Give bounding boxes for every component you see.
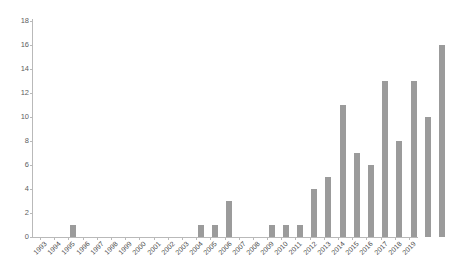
x-axis-tick-label: 2013 xyxy=(316,240,333,257)
bar xyxy=(425,117,431,237)
y-axis-tick-label: 12 xyxy=(0,89,29,97)
x-axis-tick-mark xyxy=(409,238,410,240)
y-axis-tick-mark xyxy=(30,165,32,166)
x-axis-tick-label: 2000 xyxy=(131,240,148,257)
bar xyxy=(382,81,388,237)
bar xyxy=(354,153,360,237)
bar-column xyxy=(279,21,293,237)
bar-column xyxy=(222,21,236,237)
x-axis-tick-mark xyxy=(97,238,98,240)
bar xyxy=(340,105,346,237)
plot-area xyxy=(33,21,416,237)
x-axis-tick-mark xyxy=(338,238,339,240)
bar-column xyxy=(321,21,335,237)
x-axis-tick-mark xyxy=(395,238,396,240)
bar xyxy=(368,165,374,237)
x-axis-tick-label: 2009 xyxy=(259,240,276,257)
x-axis-tick-mark xyxy=(54,238,55,240)
x-axis-tick-label: 1996 xyxy=(75,240,92,257)
x-axis-tick-mark xyxy=(40,238,41,240)
bar-column xyxy=(194,21,208,237)
bar xyxy=(396,141,402,237)
x-axis-tick-label: 1999 xyxy=(117,240,134,257)
x-axis-tick-mark xyxy=(154,238,155,240)
x-axis-tick-mark xyxy=(125,238,126,240)
y-axis-tick-mark xyxy=(30,21,32,22)
x-axis-tick-mark xyxy=(168,238,169,240)
x-axis-tick-label: 1998 xyxy=(103,240,120,257)
bar xyxy=(311,189,317,237)
x-axis-tick-label: 2019 xyxy=(401,240,418,257)
x-axis-tick-mark xyxy=(352,238,353,240)
bar xyxy=(283,225,289,237)
bar xyxy=(325,177,331,237)
x-axis-tick-label: 2014 xyxy=(330,240,347,257)
y-axis-tick-mark xyxy=(30,117,32,118)
bar-column xyxy=(406,21,420,237)
y-axis-tick-label: 18 xyxy=(0,17,29,25)
bar xyxy=(411,81,417,237)
y-axis-tick-mark xyxy=(30,213,32,214)
x-axis-tick-label: 2011 xyxy=(288,240,304,256)
y-axis-tick-label: 8 xyxy=(0,137,29,145)
bar-column xyxy=(350,21,364,237)
bar xyxy=(198,225,204,237)
x-axis-tick-label: 2016 xyxy=(358,240,375,257)
bar-column xyxy=(293,21,307,237)
y-axis-tick-label: 6 xyxy=(0,161,29,169)
bar xyxy=(297,225,303,237)
x-axis-tick-label: 2012 xyxy=(302,240,319,257)
x-axis-tick-label: 2001 xyxy=(146,240,163,257)
x-axis-tick-label: 2003 xyxy=(174,240,191,257)
x-axis-tick-label: 2008 xyxy=(245,240,262,257)
y-axis-tick-mark xyxy=(30,141,32,142)
x-axis-tick-mark xyxy=(253,238,254,240)
x-axis-tick-mark xyxy=(83,238,84,240)
y-axis-tick-label: 0 xyxy=(0,233,29,241)
y-axis-tick-label: 4 xyxy=(0,185,29,193)
y-axis-tick-mark xyxy=(30,45,32,46)
x-axis-tick-mark xyxy=(196,238,197,240)
y-axis-tick-mark xyxy=(30,93,32,94)
x-axis-tick-mark xyxy=(267,238,268,240)
y-axis-tick-label: 10 xyxy=(0,113,29,121)
x-axis-tick-label: 2002 xyxy=(160,240,177,257)
x-axis-tick-label: 2015 xyxy=(344,240,361,257)
bar-column xyxy=(364,21,378,237)
y-axis-tick-mark xyxy=(30,237,32,238)
y-axis-tick-mark xyxy=(30,189,32,190)
bar-column xyxy=(66,21,80,237)
x-axis-tick-label: 2004 xyxy=(188,240,205,257)
x-axis-tick-mark xyxy=(324,238,325,240)
bar-column xyxy=(265,21,279,237)
x-axis-tick-label: 2005 xyxy=(202,240,219,257)
bar-column xyxy=(392,21,406,237)
x-axis-tick-label: 2018 xyxy=(387,240,404,257)
x-axis-tick-mark xyxy=(182,238,183,240)
bar xyxy=(212,225,218,237)
bar xyxy=(439,45,445,237)
bar xyxy=(70,225,76,237)
y-axis-tick-label: 16 xyxy=(0,41,29,49)
bar xyxy=(226,201,232,237)
bar-column xyxy=(208,21,222,237)
x-axis-tick-mark xyxy=(281,238,282,240)
bar-column xyxy=(435,21,449,237)
x-axis-tick-mark xyxy=(239,238,240,240)
x-axis-tick-mark xyxy=(111,238,112,240)
x-axis-tick-mark xyxy=(310,238,311,240)
x-axis-tick-label: 2007 xyxy=(231,240,248,257)
x-axis-tick-label: 2017 xyxy=(373,240,390,257)
x-axis-tick-label: 1997 xyxy=(89,240,106,257)
bar-column xyxy=(378,21,392,237)
x-axis-tick-mark xyxy=(366,238,367,240)
bar-column xyxy=(307,21,321,237)
x-axis-tick-mark xyxy=(68,238,69,240)
y-axis-tick-label: 14 xyxy=(0,65,29,73)
x-axis-tick-label: 1995 xyxy=(60,240,77,257)
x-axis-tick-mark xyxy=(381,238,382,240)
x-axis-tick-label: 1993 xyxy=(32,240,49,257)
y-axis-tick-mark xyxy=(30,69,32,70)
x-axis-tick-label: 2010 xyxy=(273,240,290,257)
